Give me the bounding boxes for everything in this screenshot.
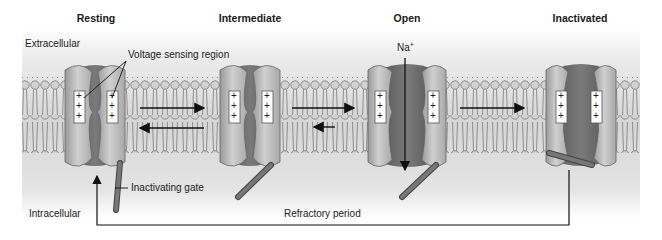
ion-symbol: Na bbox=[397, 42, 410, 53]
state-title-open: Open bbox=[394, 12, 421, 24]
charge-plus: + bbox=[264, 111, 270, 121]
inactivating-gate-label: Inactivating gate bbox=[131, 182, 204, 193]
charge-plus: + bbox=[109, 111, 115, 121]
state-title-resting: Resting bbox=[77, 12, 116, 24]
charge-plus: + bbox=[76, 111, 82, 121]
extracellular-label: Extracellular bbox=[25, 38, 80, 49]
charge-plus: + bbox=[377, 111, 383, 121]
channel-inactivated bbox=[546, 64, 616, 166]
charge-plus: + bbox=[558, 111, 564, 121]
charge-plus: + bbox=[593, 111, 599, 121]
state-title-intermediate: Intermediate bbox=[219, 12, 281, 24]
state-title-inactivated: Inactivated bbox=[553, 12, 608, 24]
ion-charge: + bbox=[410, 41, 414, 48]
sodium-channel-diagram: + + + + + + + + + + + + + + + + + + + + … bbox=[0, 0, 662, 240]
voltage-sensing-region-label: Voltage sensing region bbox=[128, 49, 229, 60]
charge-plus: + bbox=[231, 111, 237, 121]
sodium-ion-label: Na+ bbox=[397, 41, 414, 53]
refractory-period-label: Refractory period bbox=[284, 208, 361, 219]
charge-plus: + bbox=[430, 111, 436, 121]
intracellular-label: Intracellular bbox=[29, 208, 81, 219]
